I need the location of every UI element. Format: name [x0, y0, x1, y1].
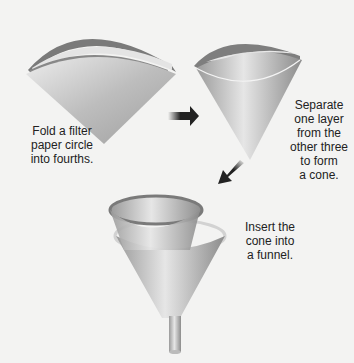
- label-line: from the: [284, 126, 354, 140]
- label-line: Insert the: [236, 220, 304, 234]
- label-line: cone into: [236, 234, 304, 248]
- arrow-down-left-icon: [218, 160, 244, 184]
- label-line: Fold a filter: [12, 124, 112, 138]
- label-line: paper circle: [12, 138, 112, 152]
- label-line: to form: [284, 154, 354, 168]
- label-line: one layer: [284, 112, 354, 126]
- label-line: other three: [284, 140, 354, 154]
- label-line: into fourths.: [12, 152, 112, 166]
- step-insert-label: Insert the cone into a funnel.: [236, 220, 304, 262]
- step-fold-label: Fold a filter paper circle into fourths.: [12, 124, 112, 166]
- step-separate-label: Separate one layer from the other three …: [284, 98, 354, 182]
- label-line: Separate: [284, 98, 354, 112]
- arrow-right-icon: [168, 106, 199, 126]
- label-line: a funnel.: [236, 248, 304, 262]
- funnel-with-cone-icon: [110, 196, 225, 354]
- label-line: a cone.: [284, 168, 354, 182]
